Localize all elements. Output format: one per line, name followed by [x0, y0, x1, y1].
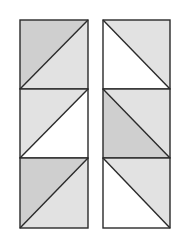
right-column [103, 20, 170, 228]
tile [20, 89, 88, 158]
tile [103, 89, 170, 158]
tile [20, 158, 88, 228]
triangle-tile-diagram [0, 0, 182, 243]
tile [20, 20, 88, 89]
tile [103, 20, 170, 89]
tile [103, 158, 170, 228]
left-column [20, 20, 88, 228]
